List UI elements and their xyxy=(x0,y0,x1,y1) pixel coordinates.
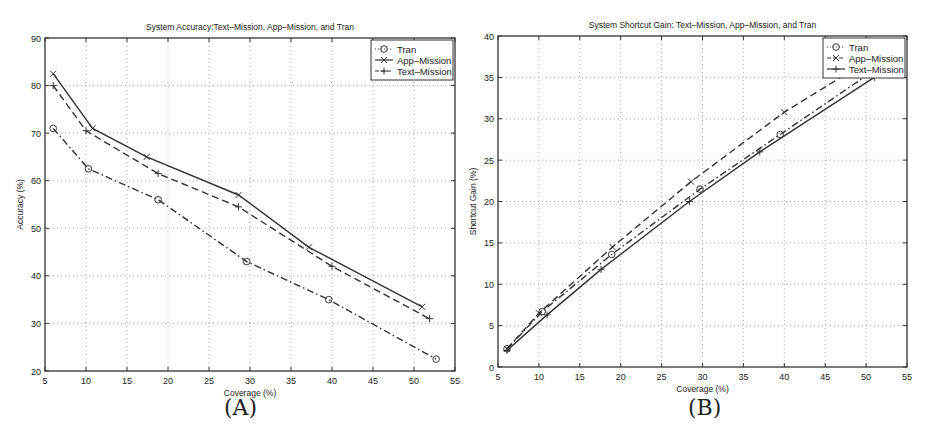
series-line xyxy=(53,128,436,359)
x-marker-icon xyxy=(781,109,787,115)
y-tick-label: 15 xyxy=(484,238,494,248)
y-axis-ticks: 2030405060708090 xyxy=(31,34,455,377)
series-line xyxy=(507,61,888,349)
y-tick-label: 5 xyxy=(489,321,494,331)
x-tick-label: 45 xyxy=(368,376,378,386)
legend-label: Tran xyxy=(849,42,868,53)
legend-label: Tran xyxy=(397,44,416,55)
x-tick-label: 10 xyxy=(81,376,91,386)
x-tick-label: 20 xyxy=(616,372,626,382)
y-tick-label: 20 xyxy=(484,197,494,207)
accuracy-chart: 5101520253035404550552030405060708090Sys… xyxy=(15,22,460,398)
x-tick-label: 15 xyxy=(575,372,585,382)
x-tick-label: 40 xyxy=(327,376,337,386)
legend-label: App–Mission xyxy=(849,53,903,64)
y-tick-label: 20 xyxy=(31,367,41,377)
x-marker-icon xyxy=(50,71,56,77)
plus-marker-icon xyxy=(155,170,162,177)
legend-label: Text–Mission xyxy=(397,66,452,77)
chart-title: System Accuracy:Text–Mission, App–Missio… xyxy=(146,22,354,32)
x-tick-label: 15 xyxy=(122,376,132,386)
y-axis-label: Accuracy (%) xyxy=(15,179,25,230)
x-tick-label: 50 xyxy=(861,372,871,382)
x-tick-label: 25 xyxy=(204,376,214,386)
legend: TranApp–MissionText–Mission xyxy=(371,40,453,80)
series-tran xyxy=(504,58,892,353)
legend-label: Text–Mission xyxy=(849,64,904,75)
x-tick-label: 45 xyxy=(820,372,830,382)
legend-label: App–Mission xyxy=(397,55,451,66)
y-tick-label: 35 xyxy=(484,73,494,83)
plus-marker-icon xyxy=(426,315,433,322)
series-line xyxy=(53,74,422,307)
panel-label-b: (B) xyxy=(688,395,721,420)
legend: TranApp–MissionText–Mission xyxy=(823,38,905,78)
y-tick-label: 90 xyxy=(31,34,41,44)
x-tick-label: 5 xyxy=(495,372,500,382)
circle-marker-icon xyxy=(155,196,162,203)
grid xyxy=(45,38,455,371)
series-app-mission xyxy=(504,54,877,352)
figure-canvas: 5101520253035404550552030405060708090Sys… xyxy=(0,0,928,443)
plus-marker-icon xyxy=(83,127,90,134)
y-tick-label: 40 xyxy=(31,271,41,281)
plus-marker-icon xyxy=(235,203,242,210)
series-text-mission xyxy=(50,82,433,322)
x-marker-icon xyxy=(144,154,150,160)
x-tick-label: 50 xyxy=(409,376,419,386)
shortcut-gain-chart: 5101520253035404550550510152025303540Sys… xyxy=(468,20,912,394)
series-line xyxy=(507,57,874,349)
y-tick-label: 50 xyxy=(31,224,41,234)
series-app-mission xyxy=(50,71,425,310)
y-axis-ticks: 0510152025303540 xyxy=(484,32,907,373)
panel-label-a: (A) xyxy=(224,395,257,420)
x-marker-icon xyxy=(419,304,425,310)
y-tick-label: 10 xyxy=(484,280,494,290)
x-tick-label: 10 xyxy=(534,372,544,382)
plot-area xyxy=(45,38,455,371)
grid xyxy=(498,36,907,367)
circle-marker-icon xyxy=(433,356,440,363)
y-tick-label: 25 xyxy=(484,156,494,166)
x-marker-icon xyxy=(610,244,616,250)
x-tick-label: 30 xyxy=(245,376,255,386)
series-text-mission xyxy=(503,74,877,354)
y-tick-label: 30 xyxy=(31,319,41,329)
y-tick-label: 60 xyxy=(31,176,41,186)
y-tick-label: 40 xyxy=(484,32,494,42)
x-tick-label: 35 xyxy=(286,376,296,386)
x-tick-label: 35 xyxy=(738,372,748,382)
x-marker-icon xyxy=(236,192,242,198)
x-marker-icon xyxy=(306,244,312,250)
x-tick-label: 40 xyxy=(779,372,789,382)
x-tick-label: 55 xyxy=(450,376,460,386)
y-tick-label: 80 xyxy=(31,81,41,91)
x-tick-label: 25 xyxy=(657,372,667,382)
series-line xyxy=(507,77,874,350)
x-tick-label: 55 xyxy=(902,372,912,382)
plus-marker-icon xyxy=(329,263,336,270)
y-axis-label: Shortcut Gain (%) xyxy=(468,168,478,236)
y-tick-label: 30 xyxy=(484,114,494,124)
circle-marker-icon xyxy=(325,296,332,303)
x-tick-label: 20 xyxy=(163,376,173,386)
x-tick-label: 30 xyxy=(697,372,707,382)
x-marker-icon xyxy=(688,179,694,185)
x-axis-label: Coverage (%) xyxy=(676,384,729,394)
series-tran xyxy=(50,125,440,362)
y-tick-label: 70 xyxy=(31,129,41,139)
chart-title: System Shortcut Gain: Text–Mission, App–… xyxy=(589,20,817,30)
x-marker-icon xyxy=(90,125,96,131)
y-tick-label: 0 xyxy=(489,363,494,373)
x-tick-label: 5 xyxy=(42,376,47,386)
x-axis-ticks: 510152025303540455055 xyxy=(42,38,460,386)
